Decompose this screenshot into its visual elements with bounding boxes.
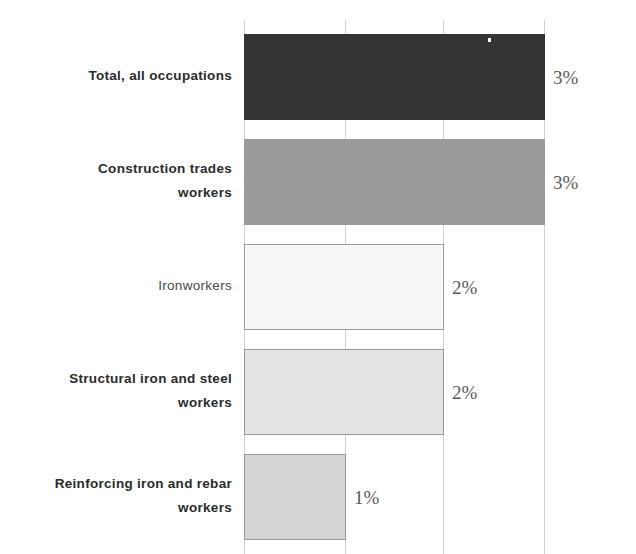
value-label: 2% <box>452 277 477 299</box>
image-artifact-speck <box>488 38 491 42</box>
bar-structural-iron-and-steel-workers <box>244 349 444 435</box>
chart-row: Construction trades workers 3% <box>0 125 636 230</box>
value-label: 3% <box>553 172 578 194</box>
category-label-line1: Construction trades <box>98 161 232 176</box>
value-label: 1% <box>354 487 379 509</box>
value-label: 2% <box>452 382 477 404</box>
category-label: Total, all occupations <box>0 64 232 88</box>
category-label-line2: workers <box>178 185 232 200</box>
category-label: Ironworkers <box>0 274 232 298</box>
bar-reinforcing-iron-and-rebar-workers <box>244 454 346 540</box>
category-label: Structural iron and steel workers <box>0 367 232 415</box>
chart-row: Total, all occupations 3% <box>0 20 636 125</box>
category-label-line1: Reinforcing iron and rebar <box>55 476 232 491</box>
category-label: Construction trades workers <box>0 157 232 205</box>
chart-row: Ironworkers 2% <box>0 230 636 335</box>
category-label-line2: workers <box>178 395 232 410</box>
chart-title <box>0 0 636 3</box>
bar-construction-trades-workers <box>244 139 545 225</box>
category-label: Reinforcing iron and rebar workers <box>0 472 232 520</box>
bar-ironworkers <box>244 244 444 330</box>
value-label: 3% <box>553 67 578 89</box>
chart-row: Structural iron and steel workers 2% <box>0 335 636 440</box>
category-label-line2: workers <box>178 500 232 515</box>
bar-total-all-occupations <box>244 34 545 120</box>
chart-row: Reinforcing iron and rebar workers 1% <box>0 440 636 545</box>
category-label-line1: Ironworkers <box>158 278 232 293</box>
category-label-line1: Total, all occupations <box>88 68 232 83</box>
bar-chart: Total, all occupations 3% Construction t… <box>0 0 636 554</box>
category-label-line1: Structural iron and steel <box>69 371 232 386</box>
